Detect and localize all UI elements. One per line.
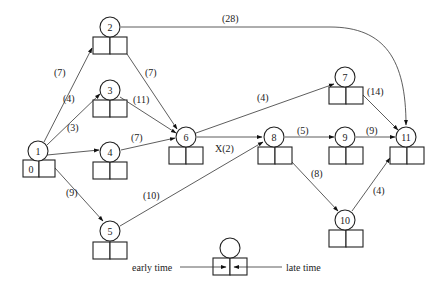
node-9-early-box [329,147,346,164]
node-4: 4 [93,142,127,179]
edge-label-6-8: X(2) [215,143,234,155]
edges [44,27,406,226]
node-11-early-box [390,147,407,164]
legend-early-label: early time [132,262,173,273]
node-8-late-box [275,147,292,164]
edge-label-5-8: (10) [143,190,160,202]
node-1-late-box [39,160,55,177]
node-11-late-box [407,147,424,164]
edge-label-9-11: (9) [366,125,378,137]
node-2-label: 2 [108,22,113,33]
node-10-late-box [346,230,363,247]
edge-label-3-6: (11) [133,94,149,106]
edge-2-11 [121,27,406,125]
node-2: 2 [93,17,127,54]
node-7-late-box [346,87,363,104]
node-9: 9 [329,127,363,164]
node-4-late-box [110,162,127,179]
edge-1-4 [47,150,99,155]
node-4-early-box [93,162,110,179]
edge-label-8-10: (8) [311,168,323,180]
legend-late-box [230,258,247,275]
node-11: 11 [390,127,424,164]
node-9-label: 9 [343,132,348,143]
legend-circle [220,238,240,258]
legend-early-box [213,258,230,275]
node-3-label: 3 [108,85,113,96]
edge-label-7-11: (14) [367,86,384,98]
node-2-early-box [93,37,110,54]
edge-label-1-2: (7) [54,67,66,79]
node-6-early-box [169,147,186,164]
node-10: 10 [329,210,363,247]
legend-late-label: late time [286,262,321,273]
node-8-early-box [258,147,275,164]
node-2-late-box [110,37,127,54]
node-6-late-box [186,147,203,164]
node-8-label: 8 [272,132,277,143]
node-7-early-box [329,87,346,104]
edge-label-1-4: (3) [67,122,79,134]
node-9-late-box [346,147,363,164]
edge-label-6-7: (4) [257,92,269,104]
node-1-label: 1 [36,146,41,157]
node-4-label: 4 [108,147,113,158]
node-8: 8 [258,127,292,164]
edge-label-2-6: (7) [145,67,157,79]
node-10-early-box [329,230,346,247]
node-5-late-box [110,242,127,259]
edge-label-4-6: (7) [131,132,143,144]
node-5-early-box [93,242,110,259]
node-1-early-value: 0 [29,164,34,175]
node-5-label: 5 [108,226,113,237]
edge-label-1-5: (9) [66,187,78,199]
edge-label-1-3: (4) [63,93,75,105]
node-7: 7 [329,67,363,104]
node-7-label: 7 [343,72,348,83]
node-11-label: 11 [401,132,411,143]
node-3-early-box [93,100,110,117]
node-3-late-box [110,100,127,117]
node-10-label: 10 [340,215,350,226]
node-1: 1 0 [23,141,55,177]
network-diagram: (7) (4) (3) (9) (7) (28) (11) (7) (10) (… [0,0,445,297]
edge-label-2-11: (28) [222,13,239,25]
edge-4-6 [121,138,175,150]
node-6-label: 6 [184,132,189,143]
node-5: 5 [93,221,127,259]
legend: early time late time [132,238,321,275]
edge-label-8-9: (5) [297,125,309,137]
edge-label-10-11: (4) [373,185,385,197]
